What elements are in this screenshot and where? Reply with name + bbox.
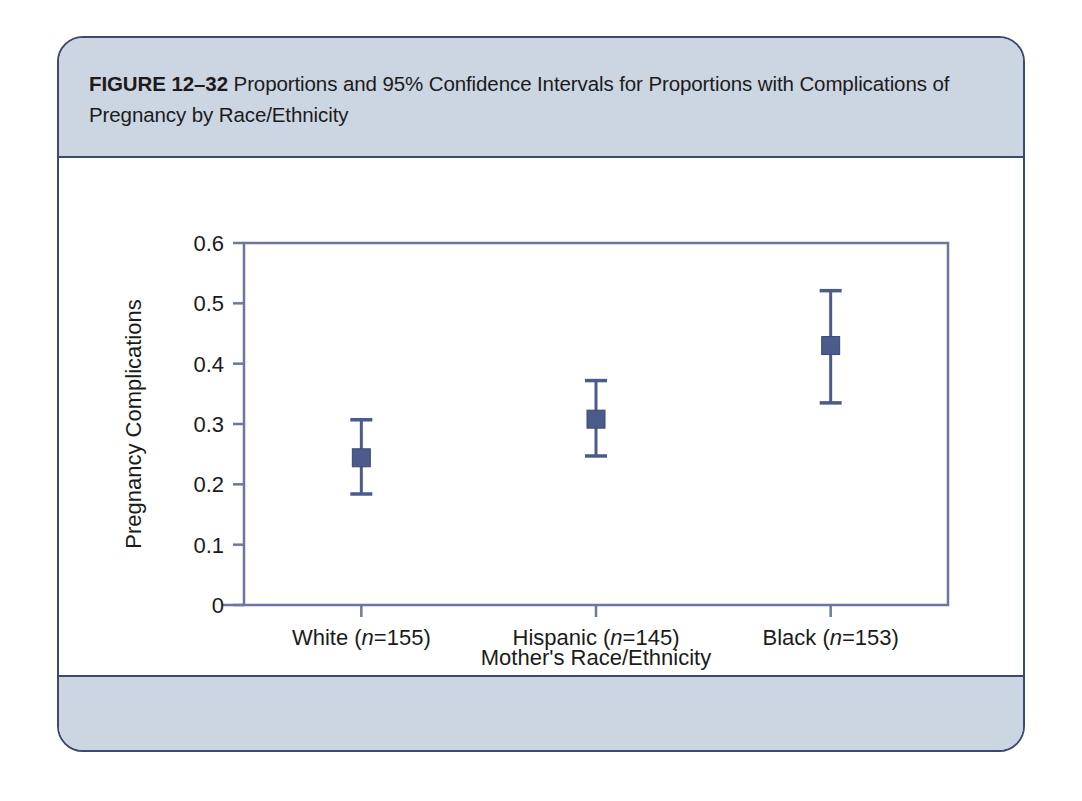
y-tick-label: 0.6 [193,231,224,256]
data-point-marker [822,337,840,355]
x-axis-title: Mother's Race/Ethnicity [481,645,711,670]
figure-panel: FIGURE 12–32 Proportions and 95% Confide… [57,36,1025,752]
figure-footer-band [59,675,1023,750]
y-tick-label: 0.3 [193,412,224,437]
y-tick-label: 0.2 [193,472,224,497]
data-point-marker [352,449,370,467]
y-tick-label: 0 [212,593,224,618]
x-axis-ticks [361,605,830,617]
y-tick-label: 0.1 [193,533,224,558]
figure-caption-band: FIGURE 12–32 Proportions and 95% Confide… [59,38,1023,158]
y-axis-title: Pregnancy Complications [121,299,146,548]
error-bar-chart: 00.10.20.30.40.50.6 White (n=155)Hispani… [59,160,1025,677]
x-category-label: Black (n=153) [762,625,898,650]
y-tick-label: 0.5 [193,291,224,316]
y-axis-ticks [233,243,244,605]
figure-caption: FIGURE 12–32 Proportions and 95% Confide… [89,68,969,130]
data-point-marker [587,410,605,428]
figure-number-label: FIGURE 12–32 [89,72,228,95]
y-axis-tick-labels: 00.10.20.30.40.50.6 [193,231,224,618]
chart-plot-region: 00.10.20.30.40.50.6 White (n=155)Hispani… [59,160,1023,677]
y-tick-label: 0.4 [193,352,224,377]
x-category-label: White (n=155) [292,625,431,650]
